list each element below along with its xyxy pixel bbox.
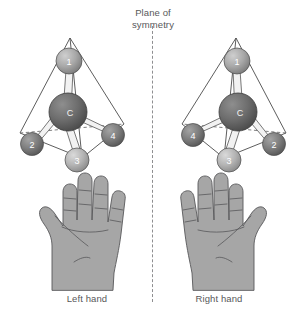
atom-2-label: 2 [29,140,34,150]
right-hand-caption: Right hand [154,293,284,304]
left-molecule: 2 4 1 3 C [6,30,146,170]
atom-4: 4 [182,124,205,147]
mirror-plane-line [152,26,153,302]
atom-4: 4 [102,124,125,147]
plane-label-line-2: symmetry [0,19,306,31]
atom-3-label: 3 [226,156,231,166]
plane-label-line-1: Plane of [0,7,306,19]
central-carbon-label: C [67,108,74,118]
atom-1-label: 1 [66,57,71,67]
right-hand [158,168,278,290]
atom-3-label: 3 [74,156,79,166]
atom-2: 2 [21,133,44,156]
right-molecule: 2 4 1 3 C [160,30,300,170]
atom-2-label: 2 [271,140,276,150]
atom-1: 1 [56,48,82,74]
plane-of-symmetry-label: Plane of symmetry [0,7,306,30]
atom-4-label: 4 [190,131,195,141]
atom-1: 1 [224,48,250,74]
left-hand [28,168,148,290]
central-carbon-atom: C [49,93,87,131]
atom-4-label: 4 [110,131,115,141]
central-carbon-label: C [237,108,244,118]
left-hand-caption: Left hand [22,293,152,304]
central-carbon-atom: C [219,93,257,131]
atom-1-label: 1 [234,57,239,67]
atom-2: 2 [263,133,286,156]
chirality-diagram: Plane of symmetry [0,0,306,316]
